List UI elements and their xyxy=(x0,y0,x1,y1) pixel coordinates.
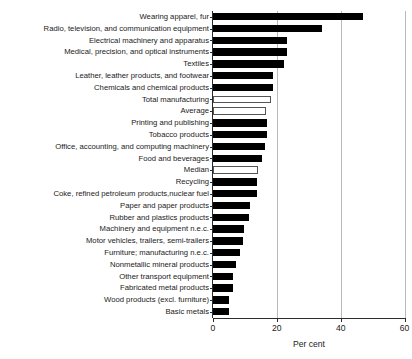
x-tick-60 xyxy=(405,318,406,322)
x-tick-label-40: 40 xyxy=(336,323,346,333)
y-axis-label: Total manufacturing xyxy=(142,94,209,106)
y-axis-labels: Wearing apparel, furRadio, television, a… xyxy=(0,11,412,318)
x-tick-0 xyxy=(213,318,214,322)
y-axis-label: Printing and publishing xyxy=(131,117,209,129)
x-axis-title: Per cent xyxy=(293,339,325,349)
y-axis-label: Medical, precision, and optical instrume… xyxy=(64,46,209,58)
y-axis-label: Average xyxy=(181,105,210,117)
bar-chart: Wearing apparel, furRadio, television, a… xyxy=(0,0,412,359)
x-tick-20 xyxy=(277,318,278,322)
x-axis-line xyxy=(213,318,405,319)
y-axis-label: Rubber and plastics products xyxy=(109,212,209,224)
y-axis-label: Other transport equipment xyxy=(119,271,209,283)
x-tick-label-60: 60 xyxy=(400,323,410,333)
y-axis-label: Nonmetallic mineral products xyxy=(110,259,209,271)
y-axis-label: Paper and paper products xyxy=(120,200,209,212)
y-axis-label: Radio, television, and communication equ… xyxy=(44,23,209,35)
x-tick-40 xyxy=(341,318,342,322)
y-axis-label: Textiles xyxy=(183,58,209,70)
y-axis-label: Food and beverages xyxy=(138,153,209,165)
x-tick-label-0: 0 xyxy=(211,323,216,333)
y-axis-label: Coke, refined petroleum products,nuclear… xyxy=(53,188,209,200)
y-axis-label: Machinery and equipment n.e.c. xyxy=(100,223,209,235)
y-axis-label: Fabricated metal products xyxy=(120,282,209,294)
y-axis-label: Basic metals xyxy=(165,306,209,318)
y-axis-label: Electrical machinery and apparatus xyxy=(89,35,209,47)
y-axis-label: Wearing apparel, fur xyxy=(139,11,209,23)
y-axis-label: Tobacco products xyxy=(149,129,209,141)
y-axis-label: Motor vehicles, trailers, semi-trailers xyxy=(86,235,209,247)
y-axis-label: Office, accounting, and computing machin… xyxy=(55,141,209,153)
y-axis-label: Furniture; manufacturing n.e.c. xyxy=(104,247,209,259)
y-axis-label: Recycling xyxy=(176,176,209,188)
y-axis-label: Wood products (excl. furniture) xyxy=(104,294,209,306)
y-axis-label: Chemicals and chemical products xyxy=(94,82,209,94)
x-tick-label-20: 20 xyxy=(272,323,282,333)
y-axis-label: Median xyxy=(184,164,209,176)
y-axis-label: Leather, leather products, and footwear xyxy=(75,70,209,82)
